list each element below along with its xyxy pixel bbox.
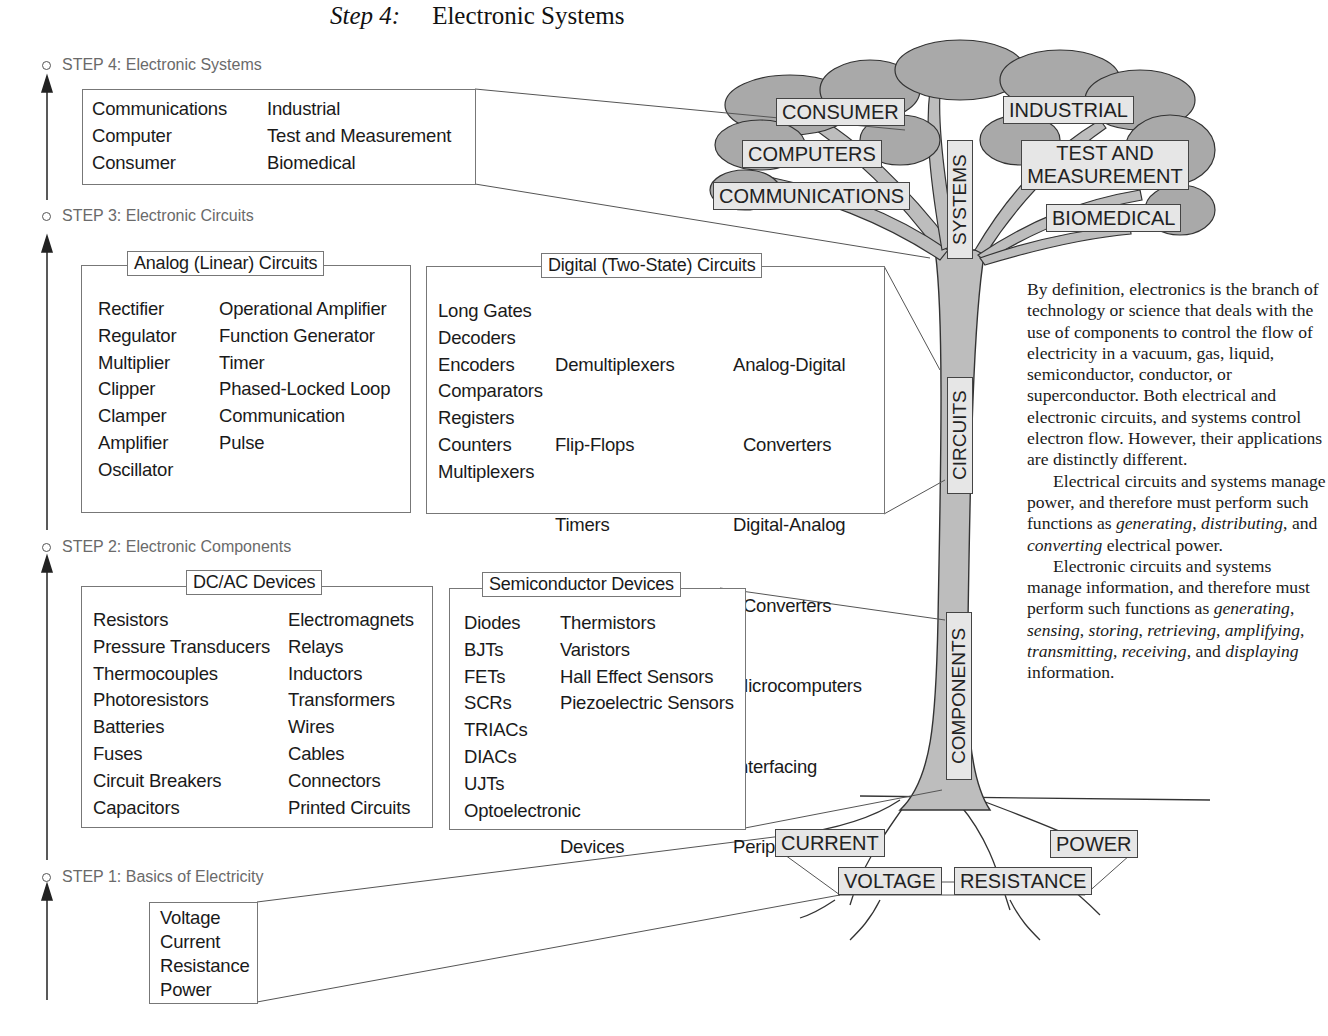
label-systems: SYSTEMS [947, 140, 973, 259]
analog-col-1: Rectifier Regulator Multiplier Clipper C… [98, 296, 176, 484]
label-test-and-measurement: TEST AND MEASUREMENT [1021, 140, 1189, 190]
digital-circuits-title: Digital (Two-State) Circuits [541, 253, 762, 278]
definition-paragraph: By definition, electronics is the branch… [1027, 279, 1327, 684]
label-voltage: VOLTAGE [838, 867, 942, 895]
label-industrial: INDUSTRIAL [1003, 96, 1134, 124]
semiconductor-devices-title: Semiconductor Devices [482, 572, 681, 597]
label-biomedical: BIOMEDICAL [1046, 204, 1181, 232]
dcac-devices-title: DC/AC Devices [186, 570, 322, 595]
label-circuits: CIRCUITS [947, 377, 973, 494]
label-computers: COMPUTERS [742, 140, 882, 168]
semiconductor-devices-box: Diodes BJTs FETs SCRs TRIACs DIACs UJTs … [449, 588, 746, 830]
label-resistance: RESISTANCE [954, 867, 1092, 895]
step-dot-icon [42, 873, 51, 882]
digital-col-3: Analog-Digital Converters Digital-Analog… [733, 298, 862, 914]
label-consumer: CONSUMER [776, 98, 905, 126]
analog-col-2: Operational Amplifier Function Generator… [219, 296, 390, 457]
label-components: COMPONENTS [946, 612, 972, 780]
step-dot-icon [42, 543, 51, 552]
paragraph-1: By definition, electronics is the branch… [1027, 279, 1327, 471]
step-4-label: STEP 4: Electronic Systems [42, 56, 262, 74]
step-1-label: STEP 1: Basics of Electricity [42, 868, 264, 886]
label-current: CURRENT [775, 829, 885, 857]
label-power: POWER [1050, 830, 1138, 858]
analog-circuits-box: Rectifier Regulator Multiplier Clipper C… [81, 265, 411, 513]
paragraph-2: Electrical circuits and systems manage p… [1027, 471, 1327, 556]
step-2-label: STEP 2: Electronic Components [42, 538, 291, 556]
step-3-label: STEP 3: Electronic Circuits [42, 207, 254, 225]
label-communications: COMMUNICATIONS [713, 182, 910, 210]
dcac-col-2: Electromagnets Relays Inductors Transfor… [288, 607, 414, 821]
digital-circuits-box: Long Gates Decoders Encoders Comparators… [426, 266, 885, 514]
systems-col-1: Communications Computer Consumer [92, 96, 227, 176]
page-title: Step 4:Electronic Systems [330, 2, 624, 30]
systems-col-2: Industrial Test and Measurement Biomedic… [267, 96, 451, 176]
semi-col-2: Thermistors Varistors Hall Effect Sensor… [560, 610, 734, 717]
dcac-col-1: Resistors Pressure Transducers Thermocou… [93, 607, 270, 821]
step-dot-icon [42, 212, 51, 221]
digital-col-1: Long Gates Decoders Encoders Comparators… [438, 298, 543, 486]
step-dot-icon [42, 61, 51, 70]
basics-list: Voltage Current Resistance Power [160, 906, 250, 1002]
analog-circuits-title: Analog (Linear) Circuits [127, 251, 324, 276]
basics-box: Voltage Current Resistance Power [149, 902, 258, 1004]
paragraph-3: Electronic circuits and systems manage i… [1027, 556, 1327, 684]
systems-box: Communications Computer Consumer Industr… [82, 89, 476, 185]
dcac-devices-box: Resistors Pressure Transducers Thermocou… [81, 586, 433, 828]
